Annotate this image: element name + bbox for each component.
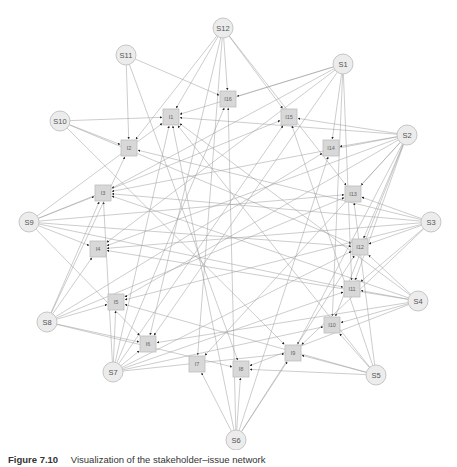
edge-s10-i2 <box>69 125 120 145</box>
issue-node-i4[interactable]: I4 <box>90 241 106 257</box>
edge-s12-i15 <box>229 36 283 108</box>
edge-s2-i3 <box>112 137 397 191</box>
edge-s1-i1 <box>180 67 333 114</box>
stakeholder-node-s11[interactable]: S11 <box>116 45 136 65</box>
issue-label: I9 <box>291 350 296 356</box>
issue-node-i1[interactable]: I1 <box>163 109 179 125</box>
issue-node-i13[interactable]: I13 <box>345 186 361 202</box>
stakeholder-node-s5[interactable]: S5 <box>366 365 386 385</box>
edge-s3-i3 <box>112 194 421 221</box>
issue-label: I7 <box>195 361 200 367</box>
issue-node-i14[interactable]: I14 <box>323 140 339 156</box>
edge-s5-i8 <box>250 369 366 374</box>
issue-label: I1 <box>169 114 174 120</box>
stakeholder-node-s3[interactable]: S3 <box>421 212 441 232</box>
edge-s4-i1 <box>180 124 410 295</box>
stakeholder-node-s8[interactable]: S8 <box>37 312 57 332</box>
edge-s2-i7 <box>205 142 400 355</box>
stakeholder-node-s1[interactable]: S1 <box>333 54 353 74</box>
edge-s8-i6 <box>57 324 139 342</box>
edge-s12-i16 <box>224 38 228 90</box>
stakeholder-label: S10 <box>53 117 66 126</box>
edge-s8-i5 <box>57 305 107 320</box>
edge-s5-i10 <box>340 334 370 368</box>
stakeholder-label: S4 <box>413 297 422 306</box>
edge-s2-i9 <box>298 144 403 344</box>
edge-s9-i12 <box>39 223 351 247</box>
stakeholder-node-s12[interactable]: S12 <box>213 18 233 38</box>
edge-s3-i5 <box>125 225 421 300</box>
issue-node-i5[interactable]: I5 <box>108 294 124 310</box>
edge-s10-i12 <box>69 125 351 243</box>
stakeholder-node-s7[interactable]: S7 <box>103 362 123 382</box>
edge-s3-i12 <box>369 225 422 244</box>
issue-label: I11 <box>348 286 355 292</box>
issue-node-i6[interactable]: I6 <box>140 336 156 352</box>
network-diagram: I1I2I3I4I5I6I7I8I9I10I11I12I13I14I15I16 … <box>0 0 457 450</box>
network-canvas: I1I2I3I4I5I6I7I8I9I10I11I12I13I14I15I16 … <box>0 0 457 450</box>
issue-label: I5 <box>114 299 119 305</box>
stakeholder-node-s4[interactable]: S4 <box>408 291 428 311</box>
figure-caption-text: Visualization of the stakeholder–issue n… <box>71 454 266 465</box>
stakeholder-node-layer: S1S2S3S4S5S6S7S8S9S10S11S12 <box>19 18 441 450</box>
edge-s2-i15 <box>298 118 397 133</box>
edge-s7-i15 <box>119 126 283 364</box>
issue-label: I15 <box>285 114 293 120</box>
issue-node-i12[interactable]: I12 <box>352 239 368 255</box>
edge-s6-i7 <box>202 373 232 431</box>
issue-node-i3[interactable]: I3 <box>95 185 111 201</box>
issue-node-i10[interactable]: I10 <box>324 317 340 333</box>
edge-s12-i1 <box>176 37 218 109</box>
edge-s4-i11 <box>361 291 408 300</box>
issue-label: I13 <box>349 191 357 197</box>
edge-s9-i4 <box>38 226 89 246</box>
issue-node-i16[interactable]: I16 <box>220 91 236 107</box>
edge-s11-i2 <box>126 65 128 139</box>
issue-label: I14 <box>327 145 335 151</box>
edge-s5-i1 <box>178 126 370 367</box>
edge-s6-i12 <box>241 256 354 432</box>
edge-s5-i9 <box>302 355 366 372</box>
stakeholder-label: S8 <box>42 318 51 327</box>
edge-s11-i16 <box>135 59 219 95</box>
issue-label: I4 <box>96 246 101 252</box>
issue-node-i11[interactable]: I11 <box>344 281 360 297</box>
stakeholder-node-s6[interactable]: S6 <box>226 430 246 450</box>
issue-node-i7[interactable]: I7 <box>189 356 205 372</box>
edge-s9-i1 <box>37 124 162 217</box>
figure-number: Figure 7.10 <box>8 454 58 465</box>
stakeholder-label: S11 <box>120 51 133 60</box>
stakeholder-label: S3 <box>426 218 435 227</box>
edge-s9-i11 <box>39 224 343 287</box>
issue-label: I8 <box>239 366 244 372</box>
stakeholder-label: S12 <box>216 24 229 33</box>
figure-caption: Figure 7.10 Visualization of the stakeho… <box>8 454 266 465</box>
edge-s7-i3 <box>104 202 113 362</box>
edge-s10-i1 <box>70 117 162 120</box>
stakeholder-node-s9[interactable]: S9 <box>19 212 39 232</box>
edge-s6-i8 <box>237 378 241 430</box>
issue-label: I6 <box>146 341 151 347</box>
stakeholder-node-s2[interactable]: S2 <box>397 125 417 145</box>
edge-s3-i13 <box>362 197 422 218</box>
edge-s6-i16 <box>228 108 236 430</box>
edge-s9-i13 <box>39 195 344 221</box>
edge-s8-i14 <box>56 153 323 316</box>
issue-node-i8[interactable]: I8 <box>233 361 249 377</box>
issue-node-i9[interactable]: I9 <box>285 345 301 361</box>
issue-label: I16 <box>224 96 232 102</box>
stakeholder-label: S1 <box>338 60 347 69</box>
issue-node-i15[interactable]: I15 <box>281 109 297 125</box>
issue-label: I12 <box>356 244 364 250</box>
stakeholder-node-s10[interactable]: S10 <box>50 111 70 131</box>
stakeholder-label: S9 <box>24 218 33 227</box>
issue-label: I3 <box>101 190 106 196</box>
issue-label: I2 <box>127 145 132 151</box>
stakeholder-label: S6 <box>231 436 240 445</box>
edge-s4-i6 <box>157 303 408 343</box>
edge-s6-i14 <box>239 157 328 431</box>
issue-label: I10 <box>328 322 336 328</box>
edge-s1-i6 <box>154 72 337 335</box>
issue-node-i2[interactable]: I2 <box>121 140 137 156</box>
edge-s3-i4 <box>107 223 421 249</box>
